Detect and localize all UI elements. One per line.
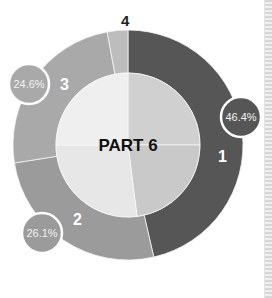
value-bubble-2: 26.1% — [22, 213, 62, 253]
value-label-2: 26.1% — [26, 227, 57, 239]
center-label: PART 6 — [98, 136, 157, 155]
donut-chart: PART 6 1 2 3 4 46.4% 26.1% 24.6% — [0, 0, 272, 298]
segment-number-4: 4 — [121, 12, 130, 29]
segment-number-2: 2 — [73, 211, 82, 228]
segment-number-3: 3 — [60, 76, 69, 93]
value-label-3: 24.6% — [13, 78, 44, 90]
value-label-1: 46.4% — [225, 111, 256, 123]
value-bubble-3: 24.6% — [9, 64, 49, 104]
page-edge-border — [264, 0, 272, 298]
value-bubble-1: 46.4% — [221, 97, 261, 137]
segment-number-1: 1 — [218, 148, 227, 165]
